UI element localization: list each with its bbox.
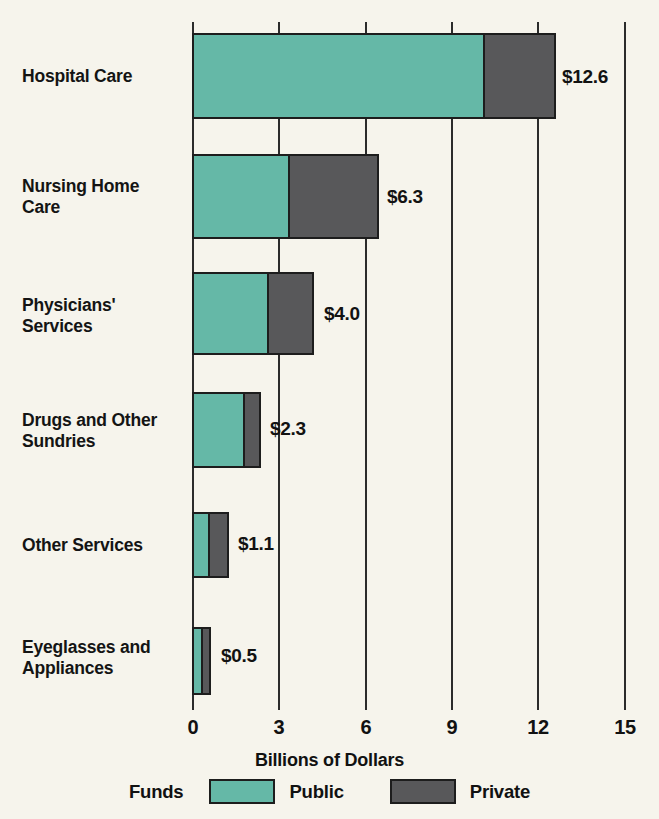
legend-label-private: Private <box>470 781 530 803</box>
legend-item-private[interactable]: Private <box>390 779 530 804</box>
category-label-other-services: Other Services <box>22 535 190 556</box>
bar-segment-public <box>194 514 208 576</box>
bar-eyeglasses-and-appliances <box>192 627 211 695</box>
gridline-15 <box>624 22 626 710</box>
plot-area: Hospital Care $12.6 Nursing Home Care $6… <box>0 0 659 760</box>
bar-value-drugs-and-other-sundries: $2.3 <box>270 418 306 440</box>
xtick-label-0: 0 <box>173 716 213 739</box>
bar-drugs-and-other-sundries <box>192 392 261 468</box>
category-label-line1: Eyeglasses and <box>22 637 151 657</box>
bar-segment-private <box>483 35 554 117</box>
bar-segment-private <box>208 514 227 576</box>
bar-physicians-services <box>192 272 314 355</box>
bar-segment-public <box>194 394 243 466</box>
category-label-line2: Services <box>22 316 92 336</box>
gridline-9 <box>451 22 453 710</box>
bar-segment-private <box>201 629 209 693</box>
gridline-0 <box>192 22 194 710</box>
bar-hospital-care <box>192 33 556 119</box>
category-label-nursing-home-care: Nursing Home Care <box>22 176 190 217</box>
category-label-line1: Nursing Home <box>22 176 139 196</box>
bar-nursing-home-care <box>192 154 379 239</box>
category-label-hospital-care: Hospital Care <box>22 66 190 87</box>
category-label-line1: Other Services <box>22 535 143 555</box>
bar-segment-public <box>194 35 483 117</box>
bar-segment-private <box>243 394 259 466</box>
bar-segment-private <box>267 274 312 353</box>
bar-segment-public <box>194 156 288 237</box>
bar-value-other-services: $1.1 <box>238 533 274 555</box>
bar-value-nursing-home-care: $6.3 <box>387 186 423 208</box>
gridline-12 <box>537 22 539 710</box>
category-label-line2: Sundries <box>22 431 95 451</box>
gridline-3 <box>278 22 280 710</box>
gridline-6 <box>365 22 367 710</box>
category-label-line1: Physicians' <box>22 295 115 315</box>
bar-value-physicians-services: $4.0 <box>324 303 360 325</box>
bar-value-hospital-care: $12.6 <box>562 66 608 88</box>
x-axis-title: Billions of Dollars <box>0 750 659 771</box>
xtick-label-15: 15 <box>605 716 645 739</box>
legend-item-public[interactable]: Public <box>209 779 343 804</box>
category-label-physicians-services: Physicians' Services <box>22 295 190 336</box>
legend-label-public: Public <box>289 781 343 803</box>
bar-value-eyeglasses-and-appliances: $0.5 <box>221 645 257 667</box>
legend-title: Funds <box>129 781 184 803</box>
category-label-line2: Appliances <box>22 658 113 678</box>
xtick-label-12: 12 <box>518 716 558 739</box>
xtick-label-9: 9 <box>432 716 472 739</box>
legend: Funds Public Private <box>0 779 659 804</box>
legend-swatch-public <box>209 779 275 804</box>
bar-segment-public <box>194 629 201 693</box>
category-label-line1: Hospital Care <box>22 66 132 86</box>
bar-segment-private <box>288 156 377 237</box>
category-label-eyeglasses-and-appliances: Eyeglasses and Appliances <box>22 637 190 678</box>
bar-segment-public <box>194 274 267 353</box>
xtick-label-6: 6 <box>346 716 386 739</box>
legend-swatch-private <box>390 779 456 804</box>
bar-chart: Hospital Care $12.6 Nursing Home Care $6… <box>0 0 659 819</box>
category-label-drugs-and-other-sundries: Drugs and Other Sundries <box>22 410 190 451</box>
category-label-line2: Care <box>22 197 60 217</box>
bar-other-services <box>192 512 229 578</box>
xtick-label-3: 3 <box>259 716 299 739</box>
category-label-line1: Drugs and Other <box>22 410 157 430</box>
